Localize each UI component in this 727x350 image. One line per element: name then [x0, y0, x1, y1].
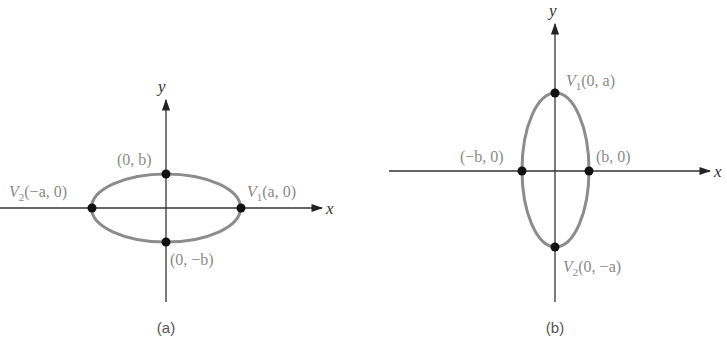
label-vertex-bottom: V2(0, −a) — [563, 258, 621, 278]
vertex-right — [237, 204, 246, 213]
label-vertex-right: V1(a, 0) — [247, 183, 296, 203]
label-bottom: (0, −b) — [170, 251, 214, 269]
figure-a: x y (0, b) (0, −b) V2(−a, 0) V1(a, 0) (a… — [0, 77, 334, 336]
label-vertex-left: V2(−a, 0) — [9, 183, 67, 203]
vertex-left — [88, 204, 97, 213]
point-top — [162, 170, 171, 179]
vertex-top — [551, 89, 560, 98]
y-axis-label: y — [156, 77, 166, 96]
y-axis-label: y — [547, 1, 557, 20]
ellipse-diagrams: x y (0, b) (0, −b) V2(−a, 0) V1(a, 0) (a… — [0, 0, 727, 350]
label-left: (−b, 0) — [460, 148, 504, 166]
x-axis-label: x — [325, 199, 334, 218]
point-right — [585, 167, 594, 176]
label-top: (0, b) — [117, 151, 152, 169]
vertex-bottom — [551, 243, 560, 252]
x-axis-label: x — [713, 162, 722, 181]
label-right: (b, 0) — [596, 148, 631, 166]
caption-b: (b) — [546, 319, 564, 336]
point-bottom — [162, 238, 171, 247]
point-left — [518, 167, 527, 176]
caption-a: (a) — [157, 319, 175, 336]
label-vertex-top: V1(0, a) — [566, 72, 615, 92]
figure-b: x y V1(0, a) V2(0, −a) (−b, 0) (b, 0) (b… — [389, 1, 722, 336]
